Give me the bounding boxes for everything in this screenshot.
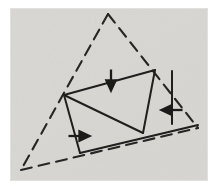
figure-root bbox=[0, 0, 218, 189]
panel-group bbox=[10, 8, 208, 181]
geometry-figure bbox=[0, 0, 218, 189]
panel-grain-overlay bbox=[10, 8, 208, 181]
